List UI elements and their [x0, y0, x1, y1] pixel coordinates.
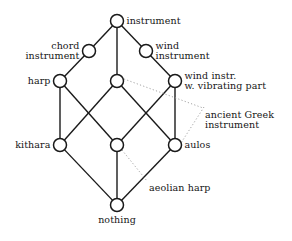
lattice-node-wind[interactable]	[140, 45, 153, 58]
leader-line-ancient-greek-1	[181, 107, 204, 143]
node-label-harp: harp	[28, 76, 51, 86]
node-label-aulos: aulos	[185, 140, 211, 150]
lattice-node-windvib[interactable]	[169, 75, 182, 88]
lattice-node-mid-upper[interactable]	[111, 75, 124, 88]
node-label-wind: wind instrument	[156, 41, 210, 61]
node-label-windvib: wind instr. w. vibrating part	[185, 71, 267, 91]
lattice-node-chord[interactable]	[83, 45, 96, 58]
node-label-kithara: kithara	[15, 140, 50, 150]
lattice-edge-top-to-chord	[94, 26, 113, 46]
annotation-ancient-greek: ancient Greek instrument	[205, 110, 274, 130]
lattice-diagram: instrumentchord instrumentwind instrumen…	[0, 0, 292, 241]
leader-line-aeolian-harp-0	[122, 150, 147, 181]
node-label-bottom: nothing	[0, 215, 234, 225]
lattice-node-kithara[interactable]	[54, 139, 67, 152]
lattice-edge-top-to-wind	[122, 26, 142, 46]
lattice-node-aulos[interactable]	[169, 139, 182, 152]
lattice-edge-kithara-to-bottom	[65, 150, 113, 200]
node-label-top: instrument	[127, 16, 181, 26]
lattice-node-top[interactable]	[111, 15, 124, 28]
lattice-node-mid-lower[interactable]	[111, 139, 124, 152]
annotation-aeolian-harp: aeolian harp	[149, 183, 211, 193]
node-label-chord: chord instrument	[25, 41, 79, 61]
lattice-node-harp[interactable]	[54, 75, 67, 88]
lattice-node-bottom[interactable]	[111, 199, 124, 212]
